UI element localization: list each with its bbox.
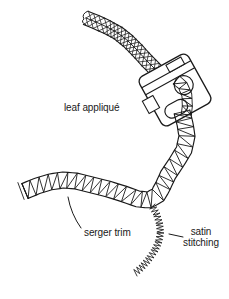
presser-foot: [132, 52, 213, 131]
leaf-applique-braid: [82, 11, 162, 77]
stroke: [18, 183, 24, 200]
satin-stitching-label: satin stitching: [177, 226, 225, 248]
stroke: [134, 204, 164, 276]
serger-trim-label: serger trim: [84, 227, 131, 238]
illustration-canvas: leaf appliqué serger trim satin stitchin…: [0, 0, 229, 299]
serger-trim-leader-line: [68, 197, 81, 228]
leaf-applique-label: leaf appliqué: [64, 102, 119, 113]
satin-stitching-curve: [134, 204, 164, 276]
sewing-diagram-art: [0, 0, 229, 299]
